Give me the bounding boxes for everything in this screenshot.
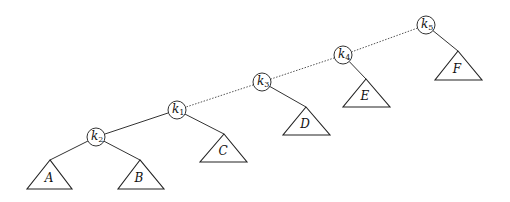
edges-layer (50, 28, 458, 160)
subtree-B: B (118, 160, 164, 189)
node-k3: k3 (253, 73, 271, 91)
edge-k1-k2 (105, 113, 169, 134)
edge-k5-k4 (351, 28, 417, 52)
node-k2: k2 (87, 128, 105, 146)
edge-k4-k3 (271, 58, 335, 79)
edge-k2-B (104, 141, 140, 160)
subtree-E: E (343, 79, 390, 107)
node-k1: k1 (168, 101, 186, 119)
subtree-label: D (299, 117, 310, 131)
node-k5: k5 (417, 16, 435, 34)
subtrees-layer: ABCDEF (27, 51, 482, 189)
subtree-label: C (218, 144, 227, 158)
edge-k1-C (185, 114, 224, 134)
subtree-A: A (27, 160, 72, 189)
subtree-F: F (435, 51, 482, 80)
edge-k3-k1 (186, 85, 254, 107)
edge-k2-A (50, 141, 88, 160)
edge-k3-D (270, 86, 306, 107)
edge-k4-E (349, 61, 366, 79)
edge-k5-F (433, 31, 458, 51)
subtree-label: B (134, 171, 144, 185)
subtree-label: F (452, 62, 462, 76)
subtree-label: E (360, 89, 370, 103)
tree-diagram: ABCDEF k5k4k3k1k2 (0, 0, 510, 202)
subtree-label: A (44, 171, 54, 185)
node-k4: k4 (334, 46, 352, 64)
subtree-C: C (200, 134, 247, 162)
subtree-D: D (283, 107, 330, 135)
nodes-layer: k5k4k3k1k2 (87, 16, 435, 146)
